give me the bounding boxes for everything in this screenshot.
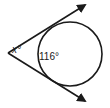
arc-measure-label: 116° bbox=[39, 51, 59, 62]
diagram-canvas: x° 116° bbox=[0, 0, 110, 108]
vertex-angle-label: x° bbox=[11, 44, 21, 55]
